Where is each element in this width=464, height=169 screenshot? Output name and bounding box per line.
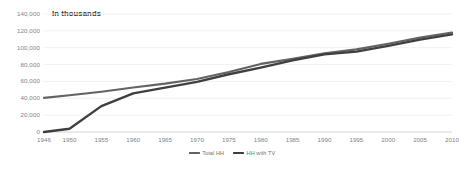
legend-swatch — [189, 152, 200, 155]
x-axis-tick-label: 1955 — [94, 136, 108, 144]
x-axis-tick-label: 1990 — [318, 136, 332, 144]
y-axis-tick-label: 60,000 — [0, 78, 40, 84]
x-axis-tick-label: 1950 — [63, 136, 77, 144]
x-axis-tick-label: 1980 — [254, 136, 268, 144]
y-axis-tick-label: 0 — [0, 129, 40, 135]
chart-legend: Total HHHH with TV — [0, 150, 464, 156]
x-axis-tick-label: 1995 — [349, 136, 363, 144]
legend-item[interactable]: Total HH — [189, 150, 224, 156]
y-axis-labels: 140,000120,000100,00080,00060,00040,0002… — [0, 14, 40, 132]
y-axis-tick-label: 100,000 — [0, 45, 40, 51]
series-line-total-hh — [44, 33, 452, 98]
legend-label: HH with TV — [247, 150, 276, 156]
y-axis-tick-label: 120,000 — [0, 28, 40, 34]
x-axis-tick-label: 1970 — [190, 136, 204, 144]
x-axis-tick-label: 2005 — [413, 136, 427, 144]
y-axis-tick-label: 140,000 — [0, 11, 40, 17]
legend-item[interactable]: HH with TV — [233, 150, 275, 156]
gridlines-group — [44, 14, 452, 132]
x-axis-tick-label: 1975 — [222, 136, 236, 144]
legend-label: Total HH — [202, 150, 224, 156]
line-chart: In thousands 140,000120,000100,00080,000… — [0, 0, 464, 169]
plot-area — [44, 14, 452, 132]
x-axis-tick-label: 1946 — [37, 136, 51, 144]
series-layer — [44, 14, 452, 132]
x-axis-tick-label: 2010 — [445, 136, 459, 144]
series-line-hh-with-tv — [44, 34, 452, 132]
x-axis-tick-label: 1960 — [126, 136, 140, 144]
x-axis-tick-label: 2000 — [381, 136, 395, 144]
legend-swatch — [233, 152, 244, 155]
x-axis-tick-label: 1965 — [158, 136, 172, 144]
y-axis-tick-label: 20,000 — [0, 112, 40, 118]
y-axis-tick-label: 40,000 — [0, 95, 40, 101]
x-axis-tick-label: 1985 — [286, 136, 300, 144]
x-axis-labels: 1946195019551960196519701975198019851990… — [44, 136, 452, 148]
y-axis-tick-label: 80,000 — [0, 62, 40, 68]
